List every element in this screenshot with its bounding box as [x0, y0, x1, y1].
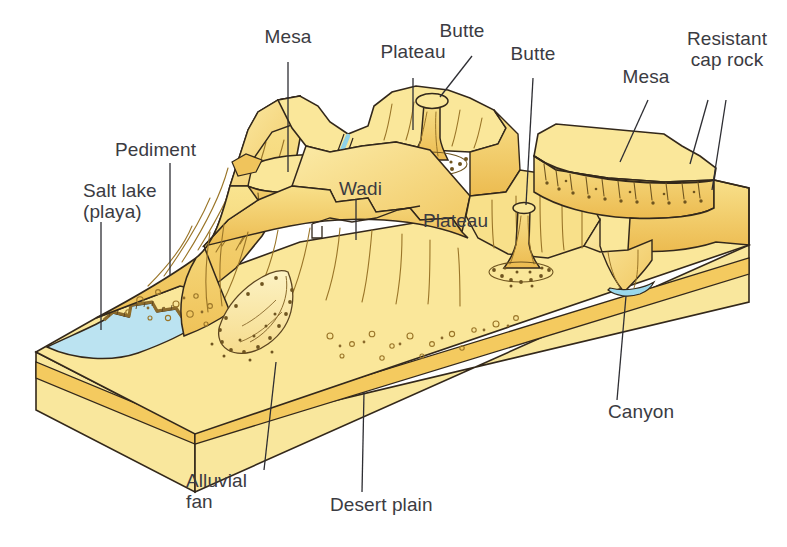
label-butte-middle: Butte — [511, 43, 556, 64]
wadi-channel-step — [312, 224, 322, 238]
label-plateau-middle: Plateau — [423, 210, 488, 231]
label-mesa-right: Mesa — [623, 66, 670, 87]
label-canyon: Canyon — [608, 401, 674, 422]
label-mesa-top: Mesa — [265, 26, 312, 47]
butte-upper-cap — [416, 94, 448, 109]
diagram-canvas: Mesa Plateau Butte Butte Mesa Resistant … — [0, 0, 787, 547]
label-pediment: Pediment — [115, 139, 196, 160]
butte-middle-cap — [513, 203, 535, 214]
leader-cap-rock-a — [690, 100, 708, 164]
label-plateau-top: Plateau — [380, 41, 445, 62]
label-alluvial-fan: Alluvial fan — [186, 470, 247, 512]
label-desert-plain: Desert plain — [330, 494, 433, 515]
mesa-right — [534, 124, 716, 219]
leader-cap-rock-b — [712, 100, 726, 190]
label-salt-lake-playa: Salt lake (playa) — [83, 180, 157, 222]
label-wadi: Wadi — [339, 178, 382, 199]
label-resistant-cap-rock: Resistant cap rock — [687, 28, 767, 70]
label-butte-top: Butte — [440, 20, 485, 41]
leader-butte-top — [440, 56, 472, 97]
